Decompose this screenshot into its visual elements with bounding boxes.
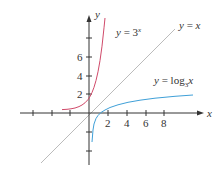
y-axis-arrow-icon	[87, 15, 92, 22]
y-tick-label: 2	[77, 88, 83, 100]
identity-line	[41, 29, 175, 163]
x-tick-label: 8	[161, 117, 167, 129]
y-axis	[86, 15, 92, 165]
chart-canvas: x y 2 4 6 8 2 4 6 y = 3x y = x y = log3x	[0, 0, 221, 177]
exp-curve-label: y = 3x	[115, 26, 142, 38]
x-axis-label: x	[206, 107, 212, 119]
log-curve-label: y = log3x	[153, 74, 193, 89]
y-axis-label: y	[94, 8, 100, 20]
y-tick-label: 4	[77, 70, 83, 82]
exp-curve	[62, 18, 105, 110]
x-tick-label: 6	[143, 117, 149, 129]
x-axis-arrow-icon	[197, 111, 204, 116]
x-axis	[20, 110, 204, 116]
x-tick-label: 4	[124, 117, 130, 129]
y-tick-label: 6	[77, 51, 83, 63]
identity-line-label: y = x	[178, 19, 201, 31]
x-tick-label: 2	[105, 117, 111, 129]
